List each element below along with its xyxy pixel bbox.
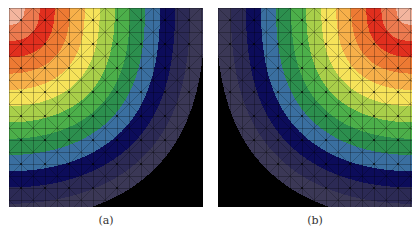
caption-b: (b) [285, 214, 345, 227]
contour-plot-b [218, 8, 412, 207]
cropped-header-strip [0, 0, 419, 4]
contour-canvas-b [218, 8, 412, 207]
contour-plot-a [9, 8, 203, 207]
contour-canvas-a [9, 8, 203, 207]
caption-a: (a) [76, 214, 136, 227]
